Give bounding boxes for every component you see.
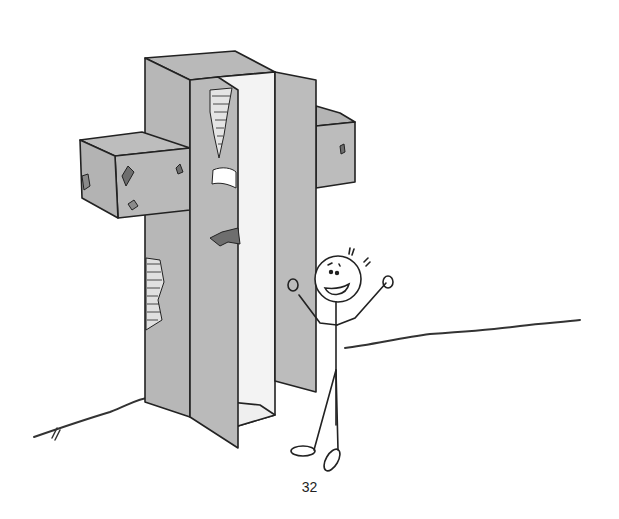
figure-head [315, 256, 361, 302]
page-number: 32 [0, 479, 619, 495]
cross-left-column [145, 58, 190, 417]
illustration [0, 0, 619, 519]
cross-right-column [275, 72, 316, 392]
cross-right-arm-face [316, 122, 355, 188]
